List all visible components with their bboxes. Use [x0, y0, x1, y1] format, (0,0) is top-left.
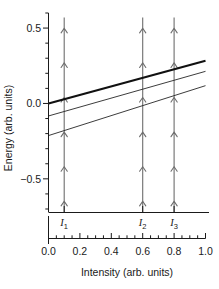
- energy-intensity-figure: 0.50.0−0.5 I1I2I3 0.00.20.40.60.81.0 Int…: [0, 0, 219, 289]
- marker-subscript: 1: [64, 222, 68, 231]
- x-tick-label: 0.4: [104, 245, 119, 257]
- x-axis-title: Intensity (arb. units): [81, 266, 173, 278]
- y-tick-label: −0.5: [20, 173, 41, 185]
- x-tick-label: 0.0: [41, 245, 56, 257]
- y-tick-label: 0.0: [26, 97, 41, 109]
- x-tick-label: 0.8: [167, 245, 182, 257]
- x-tick-label: 0.2: [73, 245, 88, 257]
- marker-subscript: 2: [142, 222, 146, 231]
- x-tick-label: 1.0: [198, 245, 213, 257]
- x-tick-label: 0.6: [135, 245, 150, 257]
- plot-canvas: 0.50.0−0.5 I1I2I3 0.00.20.40.60.81.0 Int…: [0, 0, 219, 289]
- y-tick-label: 0.5: [26, 22, 41, 34]
- marker-subscript: 3: [174, 222, 178, 231]
- y-axis-title: Energy (arb. units): [2, 85, 14, 171]
